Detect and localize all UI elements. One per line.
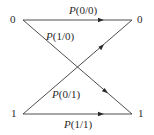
arrowhead-icon [98, 44, 104, 50]
probability-symbol: P [46, 30, 53, 42]
edge-label-p-1-0: P(1/0) [46, 31, 74, 42]
binary-channel-diagram: 0 1 0 1 P(0/0) P(1/0) P(0/1) P(1/1) [0, 0, 154, 135]
probability-args: (1/0) [53, 30, 74, 42]
output-node-1: 1 [138, 108, 144, 119]
edge-label-p-0-1: P(0/1) [52, 89, 80, 100]
edges-layer [0, 0, 154, 135]
probability-symbol: P [69, 4, 76, 16]
probability-symbol: P [52, 88, 59, 100]
input-node-0: 0 [10, 14, 16, 25]
input-node-1: 1 [11, 108, 17, 119]
probability-args: (0/1) [59, 88, 80, 100]
arrowhead-icon [98, 112, 104, 116]
output-node-0: 0 [137, 14, 143, 25]
arrowhead-icon [98, 18, 104, 22]
edge-label-p-0-0: P(0/0) [69, 5, 97, 16]
edge-label-p-1-1: P(1/1) [64, 119, 92, 130]
probability-symbol: P [64, 118, 71, 130]
probability-args: (0/0) [76, 4, 97, 16]
edge-1-to-1 [23, 112, 132, 116]
edge-0-to-0 [23, 18, 132, 22]
probability-args: (1/1) [71, 118, 92, 130]
